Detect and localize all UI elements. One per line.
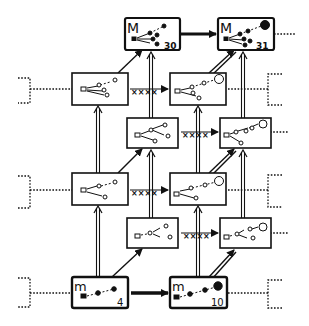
node-letter: M [220,20,232,36]
node-letter: m [74,279,87,294]
node-letter: M [127,20,139,36]
node-r5a [127,218,178,248]
node-number: 30 [164,41,177,51]
node-number: 4 [117,297,123,308]
node-r3a [127,118,178,148]
right-bracket-row2 [268,74,282,105]
blocked-mark-row5: ×××× [183,232,210,241]
node-number: 10 [211,297,224,308]
node-r3b [220,118,271,148]
node-letter: m [172,279,185,294]
left-bracket-row4 [18,176,30,208]
node-number: 31 [256,41,269,51]
left-bracket-row6 [18,278,30,307]
lattice-diagram: ×××× ×××× ×××× ×××× M 30 M 31 [0,0,309,326]
left-brackets [18,78,72,307]
node-r4a [72,173,128,205]
node-m10: m 10 [170,277,227,308]
blocked-mark-row2: ×××× [131,88,158,97]
blocked-mark-row3: ×××× [182,131,209,140]
node-r2a [72,73,128,105]
blocked-mark-row4: ×××× [131,189,158,198]
right-brackets [228,34,295,308]
node-M30: M 30 [125,18,180,51]
left-bracket-row2 [18,78,30,103]
node-m4: m 4 [72,277,128,308]
right-bracket-row6 [268,280,282,308]
node-M31: M 31 [218,18,274,51]
node-r2b [170,73,226,105]
node-r5b [220,218,271,248]
node-r4b [170,173,226,205]
right-bracket-row4 [268,175,282,207]
